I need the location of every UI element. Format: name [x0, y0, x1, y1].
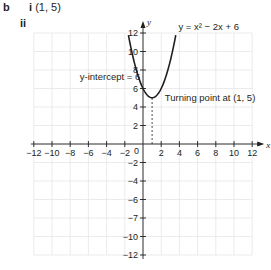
x-tick-label: −12	[26, 148, 41, 158]
equation-label: y = x² − 2x + 6	[178, 21, 238, 32]
x-tick-label: 6	[195, 148, 200, 158]
x-tick-label: −4	[101, 148, 111, 158]
y-tick-label: −6	[128, 195, 138, 205]
y-axis-arrow-icon	[141, 21, 146, 28]
y-tick-label: −2	[128, 158, 138, 168]
turning-point-label: Turning point at (1, 5)	[165, 92, 255, 103]
x-tick-label: −2	[120, 148, 130, 158]
axes	[31, 23, 262, 259]
y-intercept-label: y-intercept = 6	[80, 71, 140, 82]
x-tick-label: 4	[177, 148, 182, 158]
x-tick-label: 10	[229, 148, 239, 158]
y-tick-label: 6	[133, 84, 138, 94]
quadratic-graph: −12−10−8−6−4−22468101212108642−2−4−6−7−1…	[0, 0, 271, 270]
x-tick-label: 12	[247, 148, 257, 158]
x-tick-label: −6	[83, 148, 93, 158]
x-axis-label: x	[265, 140, 270, 150]
y-tick-label: 4	[133, 102, 138, 112]
x-tick-label: 2	[159, 148, 164, 158]
origin-label: 0	[134, 146, 139, 156]
y-tick-label: 2	[133, 121, 138, 131]
x-tick-label: −8	[65, 148, 75, 158]
y-tick-label: −12	[123, 250, 138, 260]
y-tick-label: −7	[128, 213, 138, 223]
y-tick-label: −10	[123, 232, 138, 242]
x-tick-label: −10	[44, 148, 59, 158]
x-axis-arrow-icon	[257, 142, 264, 147]
x-tick-label: 8	[213, 148, 218, 158]
y-axis-label: y	[146, 17, 151, 27]
y-tick-label: −4	[128, 176, 138, 186]
